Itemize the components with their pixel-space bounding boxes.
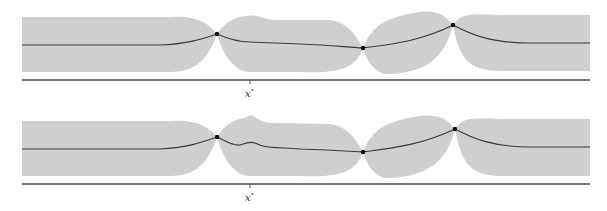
observation-point	[215, 32, 219, 36]
observation-point	[453, 127, 457, 131]
observation-point	[215, 135, 219, 139]
panel-bottom: x*	[22, 115, 590, 203]
gp-figure: x* x*	[0, 0, 607, 211]
panel-top: x*	[22, 12, 590, 99]
x-star-label: x*	[245, 191, 254, 203]
observation-point	[361, 150, 365, 154]
confidence-band	[22, 12, 590, 74]
x-star-label: x*	[245, 87, 254, 99]
confidence-band	[22, 115, 590, 178]
observation-point	[451, 23, 455, 27]
observation-point	[361, 46, 365, 50]
